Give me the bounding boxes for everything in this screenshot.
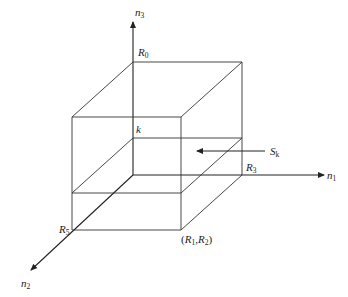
box-diagram: n3 n1 n2 R0 k Sk R3 R5 (R1,R2)	[0, 0, 348, 297]
top-right-diagonal	[181, 62, 242, 117]
label-n1: n1	[327, 169, 337, 183]
label-R0: R0	[137, 46, 149, 60]
label-n2: n2	[21, 277, 31, 291]
label-R5: R5	[58, 223, 70, 237]
axis-n2	[31, 175, 133, 270]
label-Sk: Sk	[270, 145, 280, 159]
top-left-diagonal	[72, 62, 133, 117]
section-left-diagonal	[72, 138, 133, 193]
bottom-right-diagonal	[181, 175, 242, 230]
label-R1R2: (R1,R2)	[181, 233, 212, 247]
label-k: k	[136, 123, 142, 135]
label-n3: n3	[135, 6, 145, 20]
label-R3: R3	[245, 161, 257, 175]
section-right-diagonal	[181, 138, 242, 193]
